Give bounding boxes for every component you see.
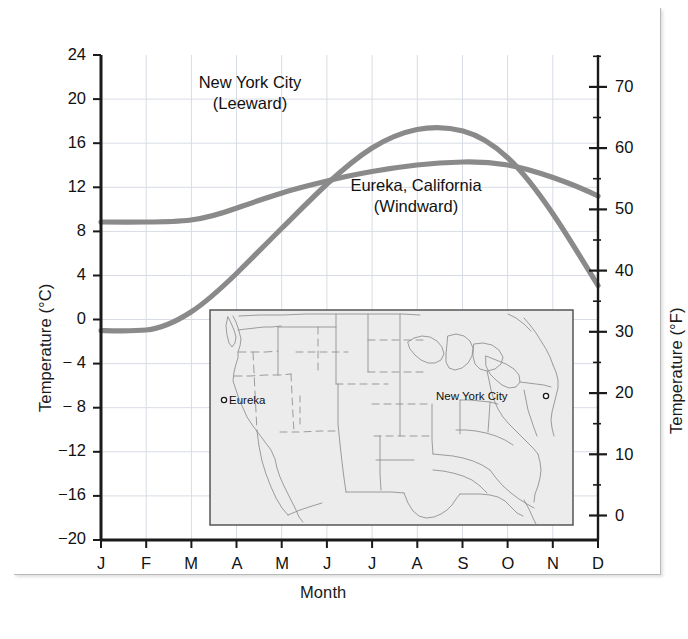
series-annotation-eureka: Eureka, California (Windward) (318, 175, 514, 217)
y-axis-title-celsius: Temperature (°C) (36, 284, 55, 412)
series-annotation-eureka-line1: Eureka, California (318, 175, 514, 196)
ytick-label-16: 16 (40, 133, 86, 152)
xtick-label-jan: J (81, 554, 121, 573)
y2tick-label-30: 30 (615, 322, 633, 341)
y2tick-label-40: 40 (615, 261, 633, 280)
xtick-label-nov: N (533, 554, 573, 573)
xtick-label-sep: S (443, 554, 483, 573)
y2tick-label-50: 50 (615, 199, 633, 218)
ytick-label-20: 20 (40, 89, 86, 108)
y-axis-title-fahrenheit: Temperature (°F) (667, 308, 686, 434)
ytick-label-neg16: −16 (34, 485, 86, 504)
ytick-label-neg20: −20 (34, 529, 86, 548)
xtick-label-oct: O (488, 554, 528, 573)
y2tick-label-60: 60 (615, 138, 633, 157)
ytick-label-8: 8 (40, 221, 86, 240)
xtick-label-dec: D (578, 554, 618, 573)
temperature-line-chart (0, 0, 688, 639)
map-label-eureka: Eureka (229, 394, 265, 406)
figure-page: 24 20 16 12 8 4 0 − 4 − 8 −12 −16 −20 70… (0, 0, 688, 639)
xtick-label-apr: A (217, 554, 257, 573)
xtick-label-mar: M (171, 554, 211, 573)
map-label-new-york-city: New York City (436, 390, 508, 402)
inset-map (210, 310, 573, 525)
y2tick-label-20: 20 (615, 383, 633, 402)
xtick-label-may: M (262, 554, 302, 573)
series-annotation-nyc-line1: New York City (160, 72, 340, 93)
ytick-label-4: 4 (40, 265, 86, 284)
y2tick-label-10: 10 (615, 445, 633, 464)
ytick-label-24: 24 (40, 45, 86, 64)
ytick-label-neg12: −12 (34, 441, 86, 460)
x-axis-title: Month (300, 583, 346, 602)
xtick-label-jun: J (307, 554, 347, 573)
xtick-label-feb: F (126, 554, 166, 573)
series-line-new-york-city (101, 128, 598, 331)
xtick-label-jul: J (352, 554, 392, 573)
ytick-label-12: 12 (40, 177, 86, 196)
series-annotation-eureka-line2: (Windward) (318, 196, 514, 217)
y2tick-label-70: 70 (615, 77, 633, 96)
xtick-label-aug: A (397, 554, 437, 573)
map-marker-new-york-city (543, 393, 548, 398)
series-annotation-nyc-line2: (Leeward) (160, 93, 340, 114)
series-annotation-new-york-city: New York City (Leeward) (160, 72, 340, 114)
y2tick-label-0: 0 (615, 506, 624, 525)
map-marker-eureka (221, 397, 226, 402)
